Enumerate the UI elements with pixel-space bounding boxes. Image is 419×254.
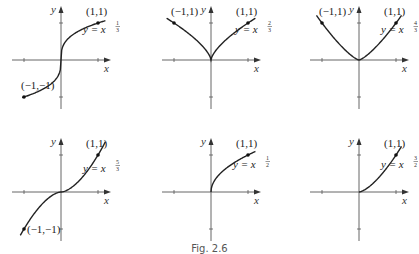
- labeled-point: [246, 153, 250, 157]
- equation-label: y = x: [82, 162, 106, 174]
- function-curve: [20, 142, 105, 236]
- y-axis-label: y: [200, 135, 206, 147]
- graph-panel-5: xy(1,1)y = x12: [162, 135, 270, 241]
- equation-label: y = x: [380, 23, 404, 35]
- point-label: (−1,−1): [27, 223, 61, 236]
- exponent-numerator: 1: [116, 20, 119, 26]
- exponent-numerator: 2: [268, 20, 271, 26]
- y-arrow-icon: [59, 6, 64, 13]
- equation-label: y = x: [232, 158, 256, 170]
- y-axis-label: y: [348, 3, 354, 15]
- point-label: (1,1): [236, 5, 257, 18]
- y-axis-label: y: [50, 3, 56, 15]
- y-axis-label: y: [200, 3, 206, 15]
- labeled-point: [22, 227, 26, 231]
- point-label: (1,1): [384, 137, 405, 150]
- equation-label: y = x: [234, 23, 258, 35]
- x-axis-label: x: [401, 194, 407, 206]
- exponent-numerator: 3: [414, 155, 417, 161]
- point-label: (1,1): [86, 137, 107, 150]
- y-arrow-icon: [209, 6, 214, 13]
- exponent-denominator: 3: [268, 27, 271, 33]
- exponent-numerator: 4: [414, 20, 417, 26]
- graph-panel-3: xy(1,1)(−1,1)y = x43: [310, 3, 418, 109]
- exponent-numerator: 5: [116, 159, 119, 165]
- exponent-denominator: 2: [266, 162, 269, 168]
- graph-panel-6: xy(1,1)y = x32: [310, 135, 418, 241]
- y-axis-label: y: [50, 135, 56, 147]
- labeled-point: [320, 21, 324, 25]
- y-arrow-icon: [59, 138, 64, 145]
- point-label: (1,1): [384, 5, 405, 18]
- figure-caption: Fig. 2.6: [0, 243, 419, 254]
- exponent-denominator: 3: [116, 27, 119, 33]
- point-label: (1,1): [86, 5, 107, 18]
- equation-label: y = x: [380, 158, 404, 170]
- point-label: (−1,1): [171, 5, 199, 18]
- y-arrow-icon: [357, 6, 362, 13]
- labeled-point: [96, 153, 100, 157]
- exponent-denominator: 3: [414, 27, 417, 33]
- point-label: (−1,−1): [21, 79, 55, 92]
- x-axis-label: x: [253, 62, 259, 74]
- exponent-denominator: 2: [414, 162, 417, 168]
- graph-panel-2: xy(1,1)(−1,1)y = x23: [162, 3, 272, 109]
- y-axis-label: y: [348, 135, 354, 147]
- exponent-denominator: 3: [116, 166, 119, 172]
- point-label: (−1,1): [319, 5, 347, 18]
- point-label: (1,1): [236, 137, 257, 150]
- exponent-numerator: 1: [266, 155, 269, 161]
- x-axis-label: x: [401, 62, 407, 74]
- graph-panel-1: xy(1,1)(−1,−1)y = x13: [12, 3, 120, 109]
- graph-panel-4: xy(1,1)(−1,−1)y = x53: [12, 135, 120, 241]
- y-arrow-icon: [357, 138, 362, 145]
- labeled-point: [172, 21, 176, 25]
- x-axis-label: x: [103, 194, 109, 206]
- equation-label: y = x: [82, 23, 106, 35]
- y-arrow-icon: [209, 138, 214, 145]
- labeled-point: [394, 153, 398, 157]
- x-axis-label: x: [103, 62, 109, 74]
- x-axis-label: x: [253, 194, 259, 206]
- labeled-point: [22, 95, 26, 99]
